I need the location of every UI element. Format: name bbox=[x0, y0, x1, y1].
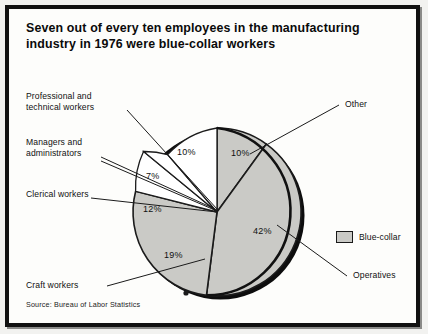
leader-other bbox=[250, 105, 339, 154]
callout-managers: Managers and administrators bbox=[26, 137, 82, 158]
chart-frame: Seven out of every ten employees in the … bbox=[5, 5, 420, 327]
pct-managers: 7% bbox=[146, 171, 159, 181]
chart-canvas: Seven out of every ten employees in the … bbox=[9, 9, 416, 323]
callout-professional: Professional and technical workers bbox=[26, 91, 94, 112]
screenshot-root: Seven out of every ten employees in the … bbox=[0, 0, 428, 334]
pct-craft: 19% bbox=[164, 250, 183, 260]
callout-other: Other bbox=[345, 99, 367, 110]
callout-craft: Craft workers bbox=[26, 280, 78, 291]
legend-label: Blue-collar bbox=[359, 232, 401, 242]
pct-operatives: 42% bbox=[253, 226, 272, 236]
source-note: Source: Bureau of Labor Statistics bbox=[26, 300, 140, 309]
callout-operatives: Operatives bbox=[353, 270, 396, 281]
blue-collar-swatch bbox=[336, 231, 353, 243]
marker-craft-dot bbox=[183, 290, 188, 295]
callout-clerical: Clerical workers bbox=[26, 189, 89, 200]
pct-clerical: 12% bbox=[143, 204, 162, 214]
pct-other: 10% bbox=[231, 148, 250, 158]
pct-professional: 10% bbox=[177, 147, 196, 157]
legend: Blue-collar bbox=[336, 231, 401, 243]
pie-chart: Professional and technical workers Manag… bbox=[9, 9, 416, 323]
